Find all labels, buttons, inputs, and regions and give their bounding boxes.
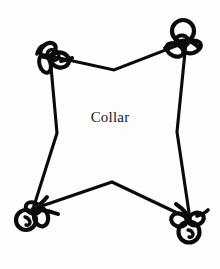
knot-tail-stroke (40, 210, 58, 214)
collar-figure-canvas (0, 0, 220, 269)
collar-diagram: Collar (0, 0, 220, 269)
knot-tail-stroke (188, 230, 193, 237)
knot-top-right (164, 20, 202, 59)
collar-center-label: Collar (0, 109, 220, 125)
knot-tail-stroke (25, 217, 30, 225)
